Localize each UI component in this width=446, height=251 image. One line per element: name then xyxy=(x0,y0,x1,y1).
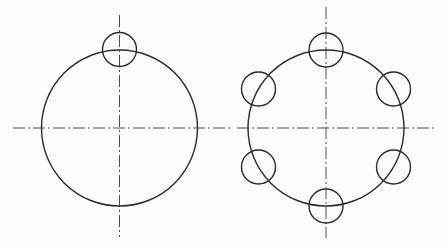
drawing-canvas xyxy=(0,0,446,251)
technical-drawing xyxy=(0,0,446,251)
figure-circular-array xyxy=(237,7,437,238)
figure-single-hole xyxy=(13,15,231,237)
